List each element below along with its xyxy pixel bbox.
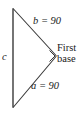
triangle-diagram: c b = 90 a = 90 First base [0,0,84,117]
label-side-b: b = 90 [33,16,61,27]
label-first-base: First base [57,43,76,64]
label-side-c: c [2,52,7,63]
label-first-base-line2: base [57,54,76,65]
label-first-base-line1: First [57,43,76,54]
label-side-a: a = 90 [31,81,59,92]
